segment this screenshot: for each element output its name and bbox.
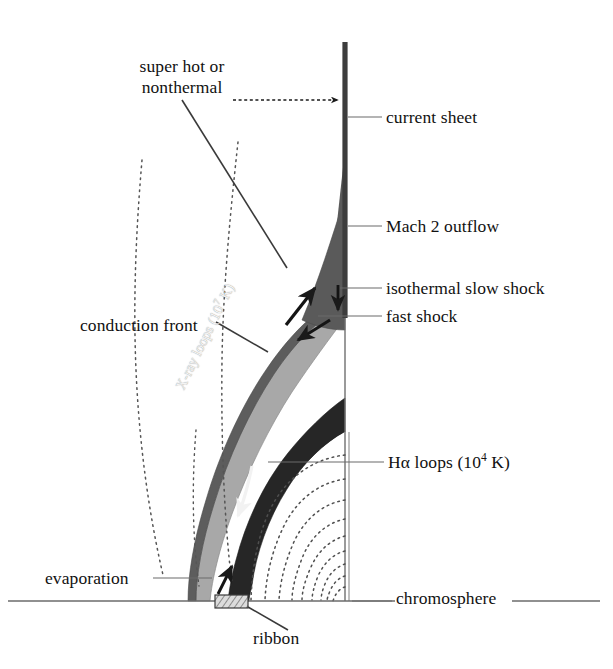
label-super-hot-line2: nonthermal	[142, 77, 223, 97]
leader-super-hot	[182, 100, 287, 268]
label-mach-2-outflow: Mach 2 outflow	[386, 216, 499, 237]
open-field-line-outer	[135, 160, 163, 575]
label-conduction-front: conduction front	[80, 315, 198, 336]
label-chromosphere: chromosphere	[396, 588, 496, 609]
label-halpha-prefix: Hα loops (10	[388, 452, 481, 472]
ribbon-box	[215, 595, 248, 608]
diagram-canvas: super hot or nonthermal current sheet Ma…	[0, 0, 613, 669]
label-halpha-suffix: K)	[487, 452, 510, 472]
label-ribbon: ribbon	[253, 628, 299, 649]
label-super-hot-line1: super hot or	[140, 56, 225, 76]
label-super-hot-or-nonthermal: super hot or nonthermal	[107, 56, 257, 97]
leader-conduction-front	[216, 322, 268, 352]
leader-ribbon	[248, 607, 288, 630]
label-isothermal-slow-shock: isothermal slow shock	[386, 278, 545, 299]
label-current-sheet: current sheet	[386, 107, 477, 128]
closed-loop-9	[333, 587, 345, 601]
label-evaporation: evaporation	[45, 568, 129, 589]
label-fast-shock: fast shock	[386, 306, 457, 327]
label-halpha-loops: Hα loops (104 K)	[388, 452, 510, 473]
